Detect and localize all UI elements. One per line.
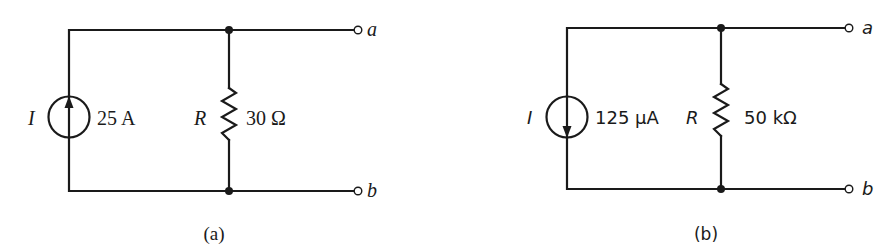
junction-dot-top-a <box>225 26 233 34</box>
circuit-panel-a: I 25 A R 30 Ω a b (a) <box>27 18 377 245</box>
resistor-symbol-label: R <box>686 107 699 128</box>
panel-caption-a: (a) <box>203 223 224 245</box>
resistor-symbol-label: R <box>193 107 206 129</box>
junction-dot-top-b <box>717 24 725 32</box>
junction-dot-bottom-b <box>717 185 725 193</box>
resistor-icon <box>714 84 728 136</box>
panel-caption-b: (b) <box>694 224 718 244</box>
source-symbol-label: I <box>527 107 532 128</box>
resistor-value-label: 30 Ω <box>246 107 286 129</box>
top-wire-a <box>69 30 354 96</box>
terminal-a-icon <box>845 24 853 32</box>
resistor-icon <box>222 88 236 140</box>
resistor-value-label: 50 kΩ <box>744 107 797 128</box>
current-source-icon <box>49 96 90 138</box>
circuit-figure: I 25 A R 30 Ω a b (a) I 125 μ <box>0 0 889 252</box>
bottom-wire-b <box>567 138 845 189</box>
terminal-b-label: b <box>862 178 873 199</box>
terminal-a-label: a <box>367 18 377 40</box>
terminal-b-icon <box>354 187 362 195</box>
terminal-a-label: a <box>862 17 873 38</box>
top-wire-b <box>567 28 845 96</box>
current-source-icon <box>547 96 588 138</box>
junction-dot-bottom-a <box>225 187 233 195</box>
circuit-panel-b: I 125 μA R 50 kΩ a b (b) <box>527 17 873 244</box>
terminal-b-label: b <box>367 179 377 201</box>
source-symbol-label: I <box>27 107 36 129</box>
terminal-a-icon <box>354 26 362 34</box>
bottom-wire-a <box>69 138 354 191</box>
terminal-b-icon <box>845 185 853 193</box>
source-value-label: 125 μA <box>595 107 660 128</box>
source-value-label: 25 A <box>97 107 136 129</box>
